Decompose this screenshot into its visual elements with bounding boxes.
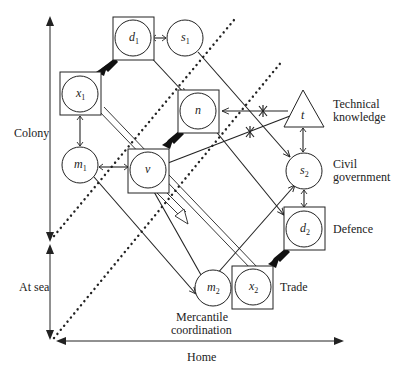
label-defence: Defence xyxy=(333,222,373,236)
node-x2: x2 xyxy=(232,266,273,309)
node-x1: x1 xyxy=(60,72,101,115)
node-v: v xyxy=(128,149,169,193)
svg-text:n: n xyxy=(195,103,201,117)
label-technical: Technical xyxy=(333,97,379,111)
label-colony: Colony xyxy=(14,126,49,140)
label-home: Home xyxy=(187,350,216,364)
node-d1: d1 xyxy=(113,17,154,60)
node-m1: m1 xyxy=(62,147,98,183)
label-trade: Trade xyxy=(280,280,308,294)
node-d2: d2 xyxy=(284,207,325,250)
label-government: government xyxy=(333,170,390,184)
node-s2: s2 xyxy=(286,153,322,189)
bold-arrow-d2-x2 xyxy=(268,248,290,268)
axis-home xyxy=(56,337,344,345)
label-at-sea: At sea xyxy=(19,280,49,294)
label-coordination: coordination xyxy=(171,323,232,337)
node-n: n xyxy=(178,90,219,133)
label-mercantile: Mercantile xyxy=(176,310,228,324)
bidirectional-arrowheads xyxy=(77,35,307,290)
node-m2: m2 xyxy=(195,270,231,306)
label-civil: Civil xyxy=(333,157,357,171)
node-t: t xyxy=(284,90,324,127)
label-knowledge: knowledge xyxy=(333,110,386,124)
node-s1: s1 xyxy=(167,20,203,56)
svg-text:v: v xyxy=(145,162,151,176)
